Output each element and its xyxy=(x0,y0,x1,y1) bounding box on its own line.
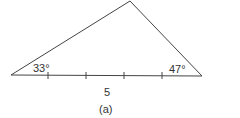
angle-right-label: 47° xyxy=(169,63,186,75)
figure-caption: (a) xyxy=(99,103,112,115)
base-length-label: 5 xyxy=(104,86,110,98)
angle-left-label: 33° xyxy=(33,62,50,74)
triangle-diagram: 33° 47° 5 (a) xyxy=(0,0,240,118)
